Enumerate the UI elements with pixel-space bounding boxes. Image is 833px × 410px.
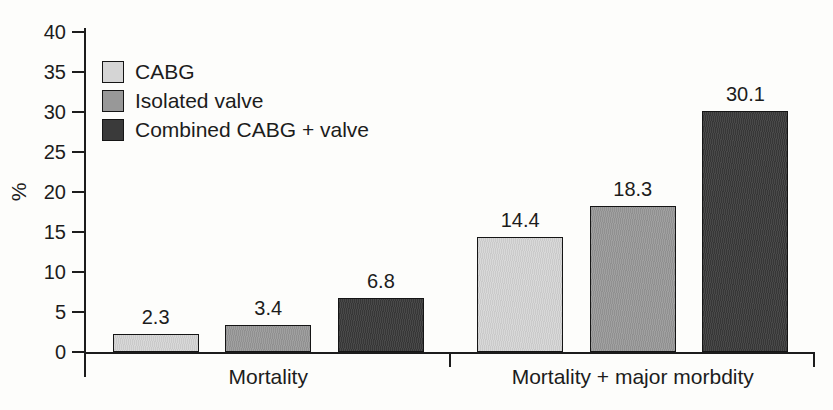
bar-value-label-mortality-cabg: 2.3 bbox=[103, 305, 209, 329]
y-tick-0 bbox=[72, 351, 84, 353]
legend-item-isolated-valve: Isolated valve bbox=[102, 89, 369, 112]
category-label-mortality-major-morbdity: Mortality + major morbdity bbox=[451, 364, 816, 390]
y-tick-label-25: 25 bbox=[0, 140, 66, 164]
bar-mortality-major-morbdity-combined-cabg-valve bbox=[702, 111, 788, 352]
y-tick-35 bbox=[72, 71, 84, 73]
y-tick-label-5: 5 bbox=[0, 300, 66, 324]
bar-mortality-major-morbdity-isolated-valve bbox=[590, 206, 676, 352]
y-tick-5 bbox=[72, 311, 84, 313]
bar-value-label-mortality-major-morbdity-cabg: 14.4 bbox=[467, 208, 573, 232]
y-tick-label-15: 15 bbox=[0, 220, 66, 244]
bar-chart-figure: % 0510152025303540 2.33.46.814.418.330.1… bbox=[0, 0, 833, 410]
legend-swatch-cabg bbox=[102, 61, 124, 83]
y-tick-20 bbox=[72, 191, 84, 193]
category-label-mortality: Mortality bbox=[86, 364, 451, 390]
y-tick-label-10: 10 bbox=[0, 260, 66, 284]
bar-value-label-mortality-combined-cabg-valve: 6.8 bbox=[328, 269, 434, 293]
y-tick-label-20: 20 bbox=[0, 180, 66, 204]
legend-label-combined-cabg-valve: Combined CABG + valve bbox=[135, 118, 369, 141]
bar-mortality-cabg bbox=[113, 334, 199, 352]
legend-label-cabg: CABG bbox=[135, 60, 195, 83]
y-tick-label-30: 30 bbox=[0, 100, 66, 124]
y-tick-label-0: 0 bbox=[0, 340, 66, 364]
y-tick-30 bbox=[72, 111, 84, 113]
legend: CABG Isolated valve Combined CABG + valv… bbox=[102, 60, 369, 147]
y-axis-line bbox=[84, 28, 86, 377]
legend-item-cabg: CABG bbox=[102, 60, 369, 83]
y-tick-25 bbox=[72, 151, 84, 153]
y-tick-10 bbox=[72, 271, 84, 273]
legend-swatch-combined-cabg-valve bbox=[102, 119, 124, 141]
bar-value-label-mortality-isolated-valve: 3.4 bbox=[215, 296, 321, 320]
bar-mortality-combined-cabg-valve bbox=[338, 298, 424, 352]
legend-label-isolated-valve: Isolated valve bbox=[135, 89, 263, 112]
y-tick-label-40: 40 bbox=[0, 20, 66, 44]
y-tick-15 bbox=[72, 231, 84, 233]
x-axis-tick-2 bbox=[813, 352, 815, 367]
y-tick-label-35: 35 bbox=[0, 60, 66, 84]
bar-mortality-isolated-valve bbox=[225, 325, 311, 352]
bar-value-label-mortality-major-morbdity-isolated-valve: 18.3 bbox=[580, 177, 686, 201]
bar-value-label-mortality-major-morbdity-combined-cabg-valve: 30.1 bbox=[692, 82, 798, 106]
legend-item-combined-cabg-valve: Combined CABG + valve bbox=[102, 118, 369, 141]
legend-swatch-isolated-valve bbox=[102, 90, 124, 112]
y-tick-40 bbox=[72, 31, 84, 33]
bar-mortality-major-morbdity-cabg bbox=[477, 237, 563, 352]
